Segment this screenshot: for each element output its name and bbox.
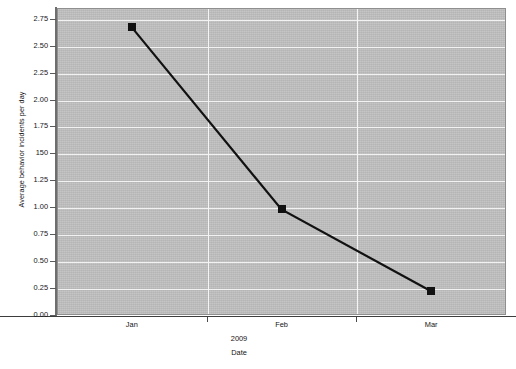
x-axis-tick-label: Mar: [391, 320, 471, 329]
y-axis-tick: [50, 315, 56, 316]
y-axis-tick: [50, 288, 56, 289]
gridline-horizontal: [58, 235, 505, 236]
y-axis-tick-label: 0.25: [4, 283, 48, 292]
chart-figure: Average behavior incidents per day 0.000…: [0, 0, 516, 369]
y-axis-tick: [50, 234, 56, 235]
y-axis-tick: [50, 261, 56, 262]
data-point-marker: [278, 205, 286, 213]
gridline-horizontal: [58, 20, 505, 21]
x-axis-title: Date: [179, 348, 299, 357]
data-point-marker: [427, 287, 435, 295]
y-axis-tick: [50, 126, 56, 127]
gridline-horizontal: [58, 47, 505, 48]
y-axis-tick-label: 0.00: [4, 310, 48, 319]
y-axis-tick-label: 2.25: [4, 68, 48, 77]
y-axis-tick-label: 0.50: [4, 256, 48, 265]
gridline-horizontal: [58, 262, 505, 263]
y-axis-tick-label: 2.00: [4, 95, 48, 104]
y-axis-tick: [50, 153, 56, 154]
y-axis-tick: [50, 100, 56, 101]
x-axis-group-label: 2009: [199, 334, 279, 343]
y-axis-line: [55, 7, 57, 316]
y-axis-tick: [50, 73, 56, 74]
x-axis-line: [0, 316, 516, 317]
y-axis-tick: [50, 180, 56, 181]
gridline-horizontal: [58, 289, 505, 290]
gridline-horizontal: [58, 74, 505, 75]
y-axis-tick-label: 1.00: [4, 202, 48, 211]
plot-texture: [58, 9, 505, 314]
x-axis-tick-label: Jan: [92, 320, 172, 329]
data-point-marker: [128, 23, 136, 31]
y-axis-tick: [50, 46, 56, 47]
gridline-vertical: [208, 9, 209, 314]
gridline-horizontal: [58, 181, 505, 182]
x-axis-tick: [207, 317, 208, 322]
x-axis-tick: [356, 317, 357, 322]
gridline-horizontal: [58, 101, 505, 102]
y-axis-tick-label: 2.50: [4, 41, 48, 50]
y-axis-tick-label: 150: [4, 148, 48, 157]
y-axis-tick-label: 2.75: [4, 14, 48, 23]
gridline-vertical: [357, 9, 358, 314]
plot-area: [57, 8, 506, 315]
y-axis-tick: [50, 207, 56, 208]
y-axis-tick: [50, 19, 56, 20]
y-axis-tick-label: 1.75: [4, 121, 48, 130]
y-axis-tick-label: 1.25: [4, 175, 48, 184]
x-axis-tick-label: Feb: [242, 320, 322, 329]
y-axis-tick-label: 0.75: [4, 229, 48, 238]
gridline-horizontal: [58, 154, 505, 155]
gridline-horizontal: [58, 127, 505, 128]
